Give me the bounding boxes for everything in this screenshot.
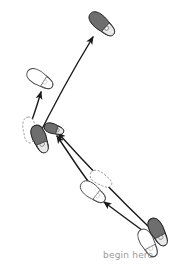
footstep-diagram bbox=[0, 0, 186, 276]
arrow-pivot-to-top-filled-foot bbox=[35, 37, 93, 143]
pivot-foot-filled-small bbox=[43, 121, 65, 137]
foot-outline bbox=[24, 65, 56, 92]
diagram-canvas: begin here bbox=[0, 0, 186, 276]
footprint-layer bbox=[22, 8, 171, 259]
top-right-foot-filled bbox=[86, 8, 118, 39]
upper-left-foot-open bbox=[24, 65, 56, 92]
